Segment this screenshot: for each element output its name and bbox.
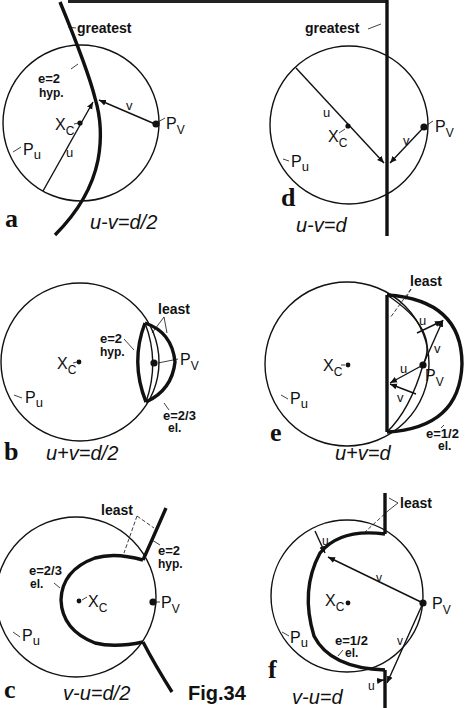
label-xc: XC [57, 355, 77, 377]
label-el-type: el. [30, 577, 43, 591]
panel-letter-a: a [5, 204, 18, 233]
equation-c: v-u=d/2 [63, 682, 130, 704]
figure-caption: Fig.34 [188, 682, 247, 704]
label-hyp-type: hyp. [158, 557, 183, 571]
xc-point [346, 601, 351, 606]
panel-e: least u v u v XC Pu PV e=1/2 el. e u+v=d [265, 273, 462, 464]
panel-letter-f: f [268, 655, 277, 684]
label-pu: Pu [25, 389, 43, 410]
label-u-upper: u [322, 534, 329, 548]
xc-point [345, 123, 350, 128]
label-greatest: greatest [77, 20, 132, 36]
label-xc: XC [55, 116, 75, 138]
panel-a: greatest e=2 hyp. XC Pu PV u v a u-v=d/2 [3, 2, 185, 235]
figure-34-diagram: greatest e=2 hyp. XC Pu PV u v a u-v=d/2… [0, 0, 469, 708]
hyperbola-least [138, 323, 146, 402]
label-v-upper: v [434, 341, 441, 356]
panel-letter-b: b [4, 437, 18, 466]
pv-point [149, 598, 156, 605]
panel-b: least e=2 hyp. XC Pu PV e=2/3 el. b u+v=… [1, 283, 199, 466]
u-vector-lower [377, 680, 384, 681]
pv-point [420, 123, 427, 130]
xc-point [77, 360, 82, 365]
label-hyp-eccentricity: e=2 [100, 331, 122, 346]
label-u-upper: u [419, 313, 426, 328]
panel-d: greatest u XC Pu PV v d u-v=d [270, 0, 454, 236]
xc-point [77, 599, 82, 604]
label-xc: XC [323, 357, 343, 379]
label-u: u [66, 145, 73, 160]
label-pv: PV [425, 367, 444, 389]
label-pv: PV [161, 594, 180, 616]
label-v: v [403, 133, 410, 148]
label-greatest: greatest [305, 20, 360, 36]
label-pv: PV [432, 595, 451, 617]
label-v-lower: v [397, 634, 403, 648]
label-v-upper: v [376, 571, 382, 585]
panel-letter-d: d [281, 183, 296, 212]
label-el-type: el. [438, 439, 451, 453]
cut-off-heading [68, 0, 388, 3]
label-xc: XC [325, 592, 345, 614]
label-conic-type: hyp. [39, 86, 64, 100]
label-pu: Pu [290, 629, 308, 650]
label-pv: PV [180, 351, 199, 373]
label-least: least [158, 301, 190, 317]
hyperbola-lower [143, 642, 172, 692]
panel-c: least e=2 hyp. e=2/3 el. XC Pu PV c v-u=… [0, 502, 247, 704]
label-pu: Pu [290, 390, 308, 411]
label-least: least [400, 495, 432, 511]
label-u-lower: u [400, 361, 407, 376]
label-xc: XC [328, 128, 348, 150]
equation-f: v-u=d [292, 686, 343, 708]
label-v-lower: v [397, 390, 404, 405]
label-pu: Pu [291, 153, 309, 174]
label-hyp-eccentricity: e=2 [158, 543, 180, 558]
panel-letter-c: c [4, 675, 16, 704]
label-least: least [101, 502, 133, 518]
equation-b: u+v=d/2 [46, 442, 118, 464]
pv-point [150, 359, 157, 366]
label-v: v [126, 98, 133, 113]
label-xc: XC [88, 593, 108, 615]
label-pu: Pu [23, 141, 41, 162]
xc-point [77, 120, 82, 125]
circle-pu [0, 517, 156, 677]
panel-letter-e: e [270, 418, 282, 447]
label-el-type: el. [168, 421, 181, 435]
label-least: least [410, 273, 442, 289]
panel-f: least u v v u XC Pu PV e=1/2 el. f v-u=d [268, 493, 451, 708]
equation-d: u-v=d [296, 214, 347, 236]
label-pv: PV [435, 118, 454, 140]
label-eccentricity: e=2 [38, 71, 60, 86]
label-pu: Pu [22, 627, 40, 648]
label-u-lower: u [368, 679, 375, 693]
label-u: u [323, 105, 330, 120]
equation-a: u-v=d/2 [90, 211, 157, 233]
equation-e: u+v=d [335, 442, 391, 464]
label-pv: PV [166, 115, 185, 137]
label-el-eccentricity: e=2/3 [29, 563, 62, 578]
xc-point [346, 363, 351, 368]
v-vector-lower [387, 603, 423, 683]
pv-point [419, 599, 426, 606]
label-el-type: el. [345, 646, 358, 660]
label-hyp-type: hyp. [100, 345, 125, 359]
